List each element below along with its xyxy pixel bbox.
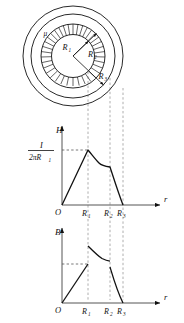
- r1-subscript: 1: [69, 47, 72, 53]
- h-xtick-r3-sub: 3: [123, 213, 126, 219]
- b-xtick-r2: R: [103, 307, 109, 316]
- h-ytick-denominator-sub: 1: [48, 157, 51, 163]
- permeability-label: μ: [44, 29, 48, 38]
- mu-label: μ: [44, 29, 48, 38]
- r3-label: R: [98, 72, 104, 81]
- r2-subscript: 2: [94, 54, 97, 60]
- coaxial-cable-field-figure: μ R 1 R 2 R 3 H r O I: [0, 0, 184, 323]
- b-xtick-r1-sub: 1: [88, 311, 91, 317]
- b-xtick-r3-sub: 3: [123, 311, 126, 317]
- h-axis-label: H: [55, 125, 63, 135]
- h-xtick-r1: R: [81, 209, 87, 218]
- h-ytick-denominator: 2πR: [29, 153, 42, 162]
- h-xtick-r3: R: [116, 209, 122, 218]
- h-xtick-r1-sub: 1: [88, 213, 91, 219]
- b-graph-origin-label: O: [55, 305, 61, 315]
- b-xtick-r2-sub: 2: [110, 311, 113, 317]
- b-xtick-r1: R: [81, 307, 87, 316]
- b-xtick-r3: R: [116, 307, 122, 316]
- r3-subscript: 3: [105, 76, 108, 82]
- b-axis-label: B: [55, 227, 61, 237]
- r1-label: R: [62, 43, 68, 52]
- h-xtick-r2-sub: 2: [110, 213, 113, 219]
- r2-label: R: [87, 50, 93, 59]
- h-graph-origin-label: O: [55, 207, 61, 217]
- h-xtick-r2: R: [103, 209, 109, 218]
